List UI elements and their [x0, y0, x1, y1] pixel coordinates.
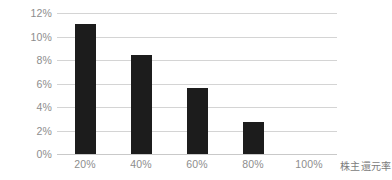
- bar[interactable]: [187, 88, 208, 154]
- axis-line-x: [57, 154, 337, 155]
- y-tick-label: 0%: [8, 148, 52, 160]
- x-tick-label: 100%: [281, 158, 337, 170]
- bar[interactable]: [75, 24, 96, 154]
- bar-category: [113, 13, 169, 154]
- y-tick-label: 6%: [8, 78, 52, 90]
- y-tick-label: 4%: [8, 101, 52, 113]
- y-tick-label: 2%: [8, 125, 52, 137]
- x-tick-label: 20%: [57, 158, 113, 170]
- y-tick-label: 12%: [8, 7, 52, 19]
- bar[interactable]: [131, 55, 152, 154]
- y-tick-label: 8%: [8, 54, 52, 66]
- bar[interactable]: [243, 122, 264, 154]
- x-tick-label: 80%: [225, 158, 281, 170]
- x-tick-label: 40%: [113, 158, 169, 170]
- bar-category: [57, 13, 113, 154]
- bar-category: [169, 13, 225, 154]
- x-tick-label: 60%: [169, 158, 225, 170]
- y-tick-label: 10%: [8, 31, 52, 43]
- bar-category: [225, 13, 281, 154]
- x-axis-title: 株主還元率: [340, 158, 392, 173]
- bar-category: [281, 13, 337, 154]
- bars-layer: [57, 13, 337, 154]
